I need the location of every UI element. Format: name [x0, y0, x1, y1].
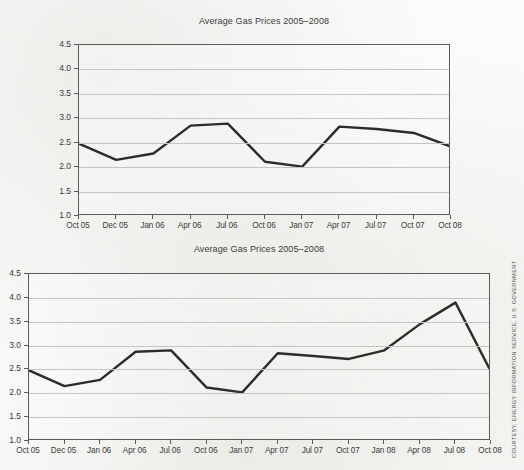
- x-tick-label: Jul 07: [365, 221, 386, 230]
- y-tick-label: 4.5: [9, 268, 21, 278]
- y-tick-label: 1.5: [9, 411, 21, 421]
- y-tick-label: 3.5: [9, 316, 21, 326]
- y-tick-mark: [74, 93, 78, 94]
- x-tick-label: Oct 07: [401, 221, 425, 230]
- gridline: [79, 94, 449, 95]
- x-tick-label: Jan 07: [289, 221, 313, 230]
- x-tick-mark: [490, 440, 491, 444]
- y-tick-mark: [74, 142, 78, 143]
- x-tick-label: Apr 07: [265, 446, 289, 455]
- y-tick-label: 3.0: [59, 112, 71, 122]
- x-tick-label: Apr 07: [327, 221, 351, 230]
- x-tick-mark: [28, 440, 29, 444]
- x-tick-mark: [383, 440, 384, 444]
- y-tick-mark: [24, 297, 28, 298]
- x-tick-label: Oct 06: [194, 446, 218, 455]
- x-tick-mark: [301, 215, 302, 219]
- chart-title-bottom: Average Gas Prices 2005–2008: [28, 244, 490, 254]
- y-tick-mark: [74, 117, 78, 118]
- x-tick-label: Apr 08: [407, 446, 431, 455]
- gridline: [29, 298, 489, 299]
- x-tick-mark: [227, 215, 228, 219]
- x-tick-mark: [277, 440, 278, 444]
- y-tick-mark: [24, 345, 28, 346]
- gridline: [29, 322, 489, 323]
- y-tick-label: 1.5: [59, 186, 71, 196]
- x-tick-label: Jul 06: [216, 221, 237, 230]
- x-tick-mark: [454, 440, 455, 444]
- chart-bottom: Average Gas Prices 2005–2008 1.01.52.02.…: [0, 240, 524, 470]
- x-tick-label: Oct 05: [66, 221, 90, 230]
- x-tick-mark: [338, 215, 339, 219]
- y-tick-mark: [74, 191, 78, 192]
- gridline: [29, 393, 489, 394]
- x-tick-label: Jul 08: [444, 446, 465, 455]
- x-tick-mark: [419, 440, 420, 444]
- x-tick-label: Oct 08: [438, 221, 462, 230]
- plot-area-bottom: [28, 273, 490, 440]
- x-tick-mark: [170, 440, 171, 444]
- y-tick-mark: [24, 392, 28, 393]
- y-tick-mark: [74, 44, 78, 45]
- y-tick-label: 3.0: [9, 340, 21, 350]
- y-tick-mark: [24, 273, 28, 274]
- plot-area-top: [78, 44, 450, 215]
- y-tick-mark: [24, 416, 28, 417]
- gridline: [29, 346, 489, 347]
- gridline: [79, 192, 449, 193]
- x-tick-label: Jan 06: [140, 221, 164, 230]
- y-tick-label: 2.0: [59, 161, 71, 171]
- data-series-line: [29, 303, 490, 393]
- x-tick-mark: [64, 440, 65, 444]
- y-tick-mark: [74, 68, 78, 69]
- y-tick-label: 1.0: [9, 435, 21, 445]
- x-tick-label: Apr 06: [178, 221, 202, 230]
- x-tick-mark: [348, 440, 349, 444]
- x-tick-label: Oct 07: [336, 446, 360, 455]
- y-tick-label: 2.0: [9, 387, 21, 397]
- x-tick-mark: [413, 215, 414, 219]
- x-tick-mark: [241, 440, 242, 444]
- x-tick-mark: [376, 215, 377, 219]
- x-tick-mark: [450, 215, 451, 219]
- y-tick-label: 1.0: [59, 210, 71, 220]
- x-tick-label: Oct 08: [478, 446, 502, 455]
- x-tick-mark: [135, 440, 136, 444]
- x-tick-label: Jul 07: [302, 446, 323, 455]
- x-tick-label: Jan 06: [87, 446, 111, 455]
- x-tick-mark: [190, 215, 191, 219]
- x-tick-label: Oct 05: [16, 446, 40, 455]
- y-tick-label: 3.5: [59, 88, 71, 98]
- x-tick-mark: [152, 215, 153, 219]
- gridline: [79, 69, 449, 70]
- data-series-line: [79, 124, 450, 167]
- x-tick-label: Apr 06: [123, 446, 147, 455]
- gridline: [29, 417, 489, 418]
- x-tick-label: Jul 06: [160, 446, 181, 455]
- x-tick-mark: [264, 215, 265, 219]
- y-tick-label: 4.0: [59, 63, 71, 73]
- y-tick-mark: [24, 321, 28, 322]
- y-tick-mark: [24, 368, 28, 369]
- x-tick-label: Jan 07: [229, 446, 253, 455]
- series-line-bottom: [29, 274, 490, 440]
- series-line-top: [79, 45, 450, 215]
- chart-title-top: Average Gas Prices 2005–2008: [78, 16, 450, 26]
- x-tick-label: Dec 05: [51, 446, 76, 455]
- x-tick-mark: [206, 440, 207, 444]
- x-tick-label: Oct 06: [252, 221, 276, 230]
- chart-top: Average Gas Prices 2005–2008 1.01.52.02.…: [0, 0, 524, 240]
- gridline: [79, 167, 449, 168]
- gridline: [79, 118, 449, 119]
- x-tick-label: Dec 05: [103, 221, 128, 230]
- photo-credit: COURTESY, ENERGY INFORMATION SERVICE, U.…: [511, 261, 517, 458]
- x-tick-mark: [115, 215, 116, 219]
- y-tick-mark: [74, 166, 78, 167]
- x-tick-mark: [312, 440, 313, 444]
- x-tick-mark: [99, 440, 100, 444]
- gridline: [79, 143, 449, 144]
- y-tick-label: 2.5: [9, 363, 21, 373]
- y-tick-label: 4.0: [9, 292, 21, 302]
- x-tick-label: Jan 08: [371, 446, 395, 455]
- x-tick-mark: [78, 215, 79, 219]
